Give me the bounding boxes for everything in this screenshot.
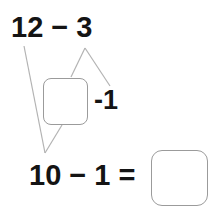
- bottom-expression: 10 − 1 =: [29, 161, 135, 190]
- top-expression: 12 − 3: [11, 13, 92, 42]
- line-part-box-to-ten: [45, 125, 62, 153]
- line-three-to-minus-one: [85, 48, 110, 86]
- line-twelve-to-ten: [24, 46, 45, 153]
- line-three-to-part-box: [71, 48, 85, 77]
- part-answer-box[interactable]: [43, 78, 88, 125]
- part-label: -1: [94, 87, 118, 114]
- result-answer-box[interactable]: [151, 150, 208, 206]
- worksheet-canvas: 12 − 3 -1 10 − 1 =: [0, 0, 219, 213]
